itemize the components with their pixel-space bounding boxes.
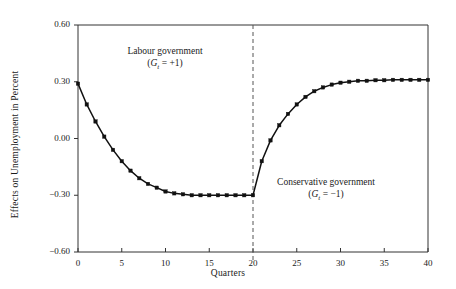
y-tick-label: 0.60 (24, 19, 70, 29)
chart-figure: 0510152025303540 −0.60−0.300.000.300.60 … (0, 0, 456, 289)
y-tick-label: −0.30 (24, 189, 70, 199)
annotation-labour-value: = +1) (159, 58, 182, 68)
x-tick-label: 25 (277, 258, 317, 268)
y-tick-label: 0.00 (24, 133, 70, 143)
x-tick-label: 20 (233, 258, 273, 268)
annotation-conservative-value: = −1) (320, 189, 343, 199)
y-tick-label: 0.30 (24, 76, 70, 86)
x-tick-label: 0 (58, 258, 98, 268)
x-tick-label: 10 (146, 258, 186, 268)
x-tick-label: 40 (408, 258, 448, 268)
annotation-conservative-government: Conservative government (Gt = −1) (250, 177, 402, 203)
annotation-labour-line1: Labour government (106, 46, 224, 58)
y-tick-label: −0.60 (24, 246, 70, 256)
y-axis-ticks (74, 25, 78, 252)
x-axis-title: Quarters (0, 268, 456, 278)
x-tick-label: 35 (364, 258, 404, 268)
annotation-conservative-line2: (Gt = −1) (250, 189, 402, 203)
x-tick-label: 15 (189, 258, 229, 268)
annotation-labour-government: Labour government (Gt = +1) (106, 46, 224, 72)
x-tick-label: 30 (321, 258, 361, 268)
annotation-conservative-line1: Conservative government (250, 177, 402, 189)
x-tick-label: 5 (102, 258, 142, 268)
annotation-labour-line2: (Gt = +1) (106, 58, 224, 72)
